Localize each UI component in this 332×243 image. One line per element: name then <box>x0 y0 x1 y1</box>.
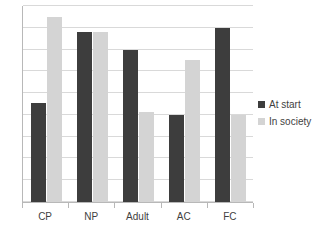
x-axis-tick <box>22 203 23 208</box>
bar-group <box>23 6 69 202</box>
x-axis-ticks <box>22 203 253 208</box>
x-axis-label-ac: AC <box>161 209 207 225</box>
bar-group <box>207 6 253 202</box>
x-axis-label-fc: FC <box>207 209 253 225</box>
x-axis-label-cp: CP <box>22 209 68 225</box>
light-square-icon <box>258 118 265 125</box>
bar[interactable] <box>215 28 230 202</box>
x-axis-tick <box>207 203 208 208</box>
bar[interactable] <box>47 17 62 202</box>
dark-square-icon <box>258 101 265 108</box>
bar-group <box>69 6 115 202</box>
x-axis-tick <box>253 203 254 208</box>
bar[interactable] <box>77 32 92 202</box>
legend-item[interactable]: In society <box>258 113 330 130</box>
bar[interactable] <box>123 50 138 202</box>
bar-group <box>161 6 207 202</box>
plot-area <box>22 6 253 203</box>
bar[interactable] <box>169 115 184 202</box>
bar[interactable] <box>31 103 46 202</box>
bar[interactable] <box>139 112 154 202</box>
bar-chart: CPNPAdultACFC At startIn society <box>0 0 332 243</box>
legend-label: In society <box>269 116 311 127</box>
bar[interactable] <box>185 60 200 202</box>
bars-layer <box>23 6 253 202</box>
x-axis-tick <box>114 203 115 208</box>
legend-item[interactable]: At start <box>258 96 330 113</box>
x-axis-tick <box>161 203 162 208</box>
x-axis-label-adult: Adult <box>114 209 160 225</box>
chart-legend: At startIn society <box>258 96 330 130</box>
x-axis-label-np: NP <box>68 209 114 225</box>
bar[interactable] <box>93 32 108 202</box>
x-axis-tick <box>68 203 69 208</box>
bar-group <box>115 6 161 202</box>
x-axis-labels: CPNPAdultACFC <box>22 209 253 225</box>
legend-label: At start <box>269 99 301 110</box>
bar[interactable] <box>231 115 246 202</box>
